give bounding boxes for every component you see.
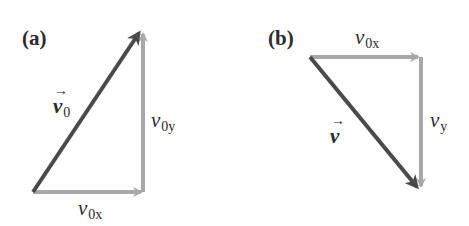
label-v0x-b: v0x [355, 25, 379, 50]
vector-diagram [0, 0, 469, 226]
panel-label-b: (b) [268, 26, 294, 51]
panel-b [310, 57, 421, 187]
panel-label-a: (a) [22, 26, 47, 51]
label-v0y-a: v0y [151, 108, 175, 133]
vector-v0-a [33, 33, 139, 192]
label-v0x-a: v0x [78, 196, 102, 221]
vector-arrow-icon: → [54, 83, 68, 99]
label-v0-a: →v0 [53, 94, 70, 119]
label-v-b: →v [330, 124, 339, 149]
vector-v-b [310, 57, 417, 187]
panel-a [33, 33, 143, 192]
label-vy-b: vy [430, 108, 447, 133]
vector-arrow-icon: → [331, 113, 345, 129]
